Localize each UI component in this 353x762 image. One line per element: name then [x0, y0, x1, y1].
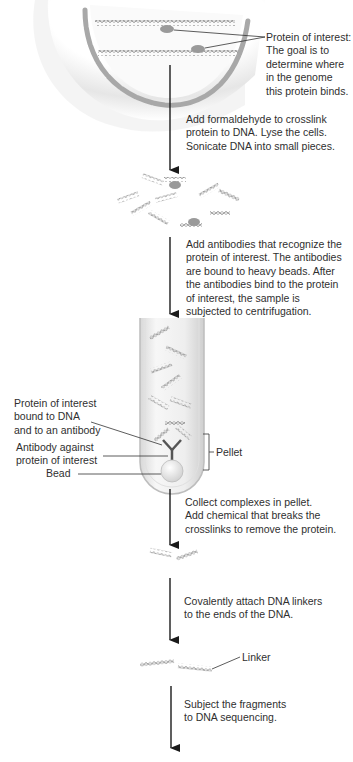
cell-illustration — [33, 0, 265, 132]
bead-label: Bead — [46, 467, 71, 480]
dna-fragments-sonicated — [117, 173, 240, 228]
dna-strand-2 — [98, 50, 238, 56]
step2-text: Add antibodies that recognize the protei… — [186, 238, 342, 318]
centrifuge-tube — [140, 318, 204, 494]
antibody-label: Antibody against protein of interest — [16, 441, 97, 468]
dna-fragments-free — [150, 548, 199, 562]
pellet-label: Pellet — [216, 446, 242, 459]
dna-strand-1 — [95, 20, 235, 26]
step3-text: Collect complexes in pellet. Add chemica… — [185, 496, 336, 536]
bead-icon — [161, 460, 183, 482]
linker-label: Linker — [242, 651, 271, 664]
protein-bound-label: Protein of interest bound to DNA and to … — [14, 397, 100, 437]
protein-of-interest-label: Protein of interest: The goal is to dete… — [266, 31, 351, 98]
protein-of-interest-2 — [191, 45, 205, 53]
dna-fragments-with-linkers — [140, 658, 212, 672]
step4-text: Covalently attach DNA linkers to the end… — [184, 595, 322, 622]
step1-text: Add formaldehyde to crosslink protein to… — [186, 113, 335, 153]
protein-of-interest-1 — [160, 25, 174, 33]
step5-text: Subject the fragments to DNA sequencing. — [184, 698, 286, 725]
